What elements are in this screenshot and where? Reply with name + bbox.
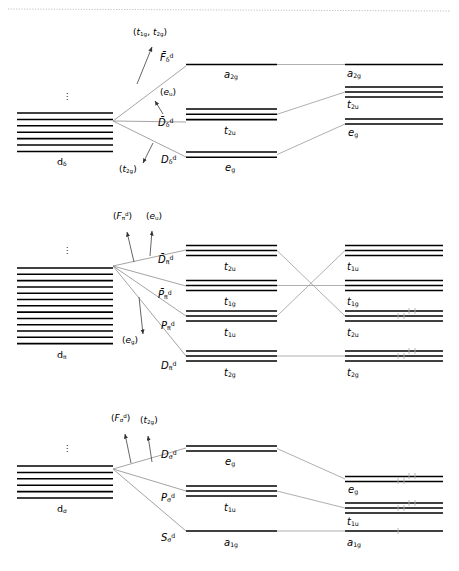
diagram-vector-layer bbox=[0, 0, 459, 571]
pi-middle-level-t2g: t2g bbox=[224, 368, 236, 379]
pi-term-P: Pπd bbox=[161, 321, 175, 332]
delta-ellipsis: ⋮ bbox=[63, 95, 66, 98]
sigma-t2g-annotation: (t2g) bbox=[140, 416, 158, 426]
pi-right-level-t1u: t1u bbox=[347, 262, 359, 273]
delta-t1g-t2g-annotation: (t1g, t2g) bbox=[133, 28, 167, 38]
delta-annotation-arrows bbox=[137, 47, 163, 163]
sigma-middle-level-t1u: t1u bbox=[224, 503, 236, 514]
delta-term-F: F̄δd bbox=[160, 53, 174, 64]
pi-right-level-t1g: t1g bbox=[347, 297, 359, 308]
delta-middle-level-t2u: t2u bbox=[224, 126, 236, 137]
delta-fan-connectors bbox=[113, 66, 186, 157]
pi-ellipsis: ⋮ bbox=[63, 249, 66, 252]
sigma-ellipsis: ⋮ bbox=[63, 447, 66, 450]
top-dotted-rule bbox=[8, 9, 451, 11]
delta-manifold-label: dδ bbox=[57, 157, 67, 168]
sigma-middle-level-eg: eg bbox=[225, 457, 235, 468]
pi-middle-level-t1u: t1u bbox=[224, 328, 236, 339]
pi-middle-level-t1g: t1g bbox=[224, 297, 236, 308]
delta-right-level-a2g: a2g bbox=[347, 69, 361, 80]
delta-term-D: Dδd bbox=[161, 155, 176, 166]
sigma-right-levels bbox=[345, 477, 443, 532]
delta-eu-annotation: (eu) bbox=[160, 88, 176, 98]
sigma-middle-to-right-connectors bbox=[277, 449, 345, 532]
delta-t2g-annotation: (t2g) bbox=[119, 165, 137, 175]
pi-middle-level-t2u: t2u bbox=[224, 262, 236, 273]
pi-crossing-connectors bbox=[277, 251, 345, 357]
pi-manifold-lines bbox=[17, 268, 113, 344]
sigma-manifold-label: dσ bbox=[57, 504, 67, 515]
delta-right-level-t2u: t2u bbox=[347, 100, 359, 111]
delta-middle-level-a2g: a2g bbox=[224, 70, 238, 81]
pi-right-level-t2u: t2u bbox=[347, 328, 359, 339]
pi-right-levels bbox=[345, 246, 443, 362]
pi-F-annotation: (Fπd) bbox=[113, 212, 132, 222]
delta-middle-to-right-connectors bbox=[277, 65, 345, 155]
delta-manifold-lines bbox=[17, 113, 113, 151]
sigma-term-S: Sσd bbox=[161, 533, 175, 544]
sigma-right-level-t1u: t1u bbox=[347, 517, 359, 528]
delta-right-level-eg: eg bbox=[348, 128, 358, 139]
sigma-right-level-eg: eg bbox=[348, 485, 358, 496]
pi-eu-annotation: (eu) bbox=[146, 212, 162, 222]
sigma-term-D: Dσd bbox=[161, 450, 177, 461]
sigma-right-level-a1g: a1g bbox=[347, 538, 361, 549]
pi-manifold-label: dπ bbox=[57, 350, 67, 361]
delta-middle-level-eg: eg bbox=[225, 163, 235, 174]
sigma-manifold-lines bbox=[17, 466, 113, 498]
sigma-F-annotation: (Fσd) bbox=[111, 414, 130, 424]
delta-term-Dbar: D̄δd bbox=[158, 118, 173, 129]
pi-annotation-arrows bbox=[127, 231, 152, 334]
diagram-canvas: ⋮ dδ (t1g, t2g) (eu) (t2g) F̄δd D̄δd Dδd… bbox=[0, 0, 459, 571]
pi-term-D: Dπd bbox=[161, 361, 176, 372]
sigma-middle-level-a1g: a1g bbox=[224, 538, 238, 549]
pi-term-Pbar: P̄πd bbox=[158, 290, 172, 301]
pi-eg-annotation: (eg) bbox=[122, 336, 138, 346]
sigma-term-P: Pσd bbox=[161, 493, 175, 504]
pi-right-level-t2g: t2g bbox=[347, 368, 359, 379]
pi-term-Dbar: D̄πd bbox=[158, 255, 173, 266]
